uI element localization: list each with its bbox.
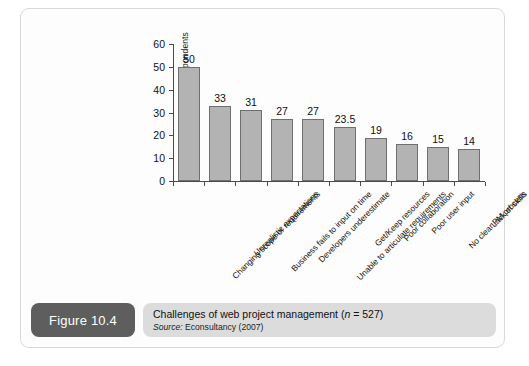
bar: [209, 106, 231, 181]
bar: [458, 149, 480, 181]
x-axis-tick-mark: [485, 182, 486, 186]
x-axis-tick-mark: [204, 182, 205, 186]
x-axis-tick-mark: [267, 182, 268, 186]
bar-value-label: 50: [165, 54, 213, 65]
caption-title-prefix: Challenges of web project management (: [153, 308, 344, 320]
figure-number-badge: Figure 10.4: [31, 303, 135, 337]
bar-chart: % of respondents 0102030405060 503331272…: [21, 9, 504, 294]
caption-source-prefix: Source:: [153, 322, 183, 332]
caption-title-suffix: = 527): [350, 308, 383, 320]
x-axis-tick-mark: [360, 182, 361, 186]
y-axis-tick-label: 10: [141, 153, 165, 163]
bar: [365, 138, 387, 181]
bar-value-label: 14: [445, 136, 493, 147]
x-axis-tick-mark: [423, 182, 424, 186]
bar: [427, 147, 449, 181]
y-axis-tick-label: 20: [141, 130, 165, 140]
figure-number-label: Figure 10.4: [49, 313, 117, 328]
caption-source-text: Econsultancy (2007): [183, 322, 264, 332]
y-axis-tick-mark: [169, 44, 173, 45]
bar-value-label: 23.5: [321, 114, 369, 125]
bar: [396, 144, 418, 181]
x-axis-tick-mark: [391, 182, 392, 186]
y-axis-tick-mark: [169, 113, 173, 114]
bar: [178, 67, 200, 181]
y-axis-tick-label: 40: [141, 85, 165, 95]
bar: [302, 119, 324, 181]
y-axis-tick-mark: [169, 135, 173, 136]
figure-caption: Figure 10.4 Challenges of web project ma…: [31, 303, 496, 339]
y-axis-tick-mark: [169, 90, 173, 91]
y-axis-tick-label: 30: [141, 108, 165, 118]
bar: [240, 110, 262, 181]
y-axis-tick-mark: [169, 158, 173, 159]
x-axis-tick-mark: [235, 182, 236, 186]
x-axis-tick-mark: [454, 182, 455, 186]
x-axis-tick-mark: [173, 182, 174, 186]
caption-source: Source: Econsultancy (2007): [153, 321, 486, 333]
x-axis-tick-mark: [329, 182, 330, 186]
y-axis-tick-label: 60: [141, 39, 165, 49]
figure-card: % of respondents 0102030405060 503331272…: [20, 8, 505, 348]
caption-title: Challenges of web project management (n …: [153, 308, 486, 321]
x-axis-label: Lack of skills: [489, 189, 529, 229]
bar: [271, 119, 293, 181]
y-axis-tick-label: 0: [141, 176, 165, 186]
caption-text-box: Challenges of web project management (n …: [143, 303, 496, 337]
x-axis-tick-mark: [298, 182, 299, 186]
y-axis-tick-mark: [169, 67, 173, 68]
y-axis-tick-label: 50: [141, 62, 165, 72]
